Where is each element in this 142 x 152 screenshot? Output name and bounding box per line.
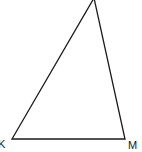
vertex-label-m: M: [128, 140, 137, 151]
triangle-figure: [0, 0, 142, 152]
triangle-shape: [12, 0, 125, 139]
vertex-label-k: K: [0, 139, 5, 150]
